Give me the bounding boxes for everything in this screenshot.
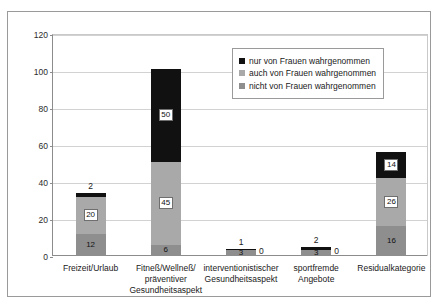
y-axis-tick-mark [50, 220, 53, 221]
bar-segment-bottom[interactable]: 6 [151, 245, 181, 256]
bar-value-label: 3 [239, 249, 243, 257]
category-label-line: Gesundheitsaspekt [203, 274, 278, 285]
category-label-line: Fitneß/Wellneß/ [128, 263, 203, 274]
legend-item-nur: nur von Frauen wahrgenommen [239, 56, 376, 66]
legend-item-label: auch von Frauen wahrgenommen [249, 68, 376, 78]
y-axis-tick-label: 20 [39, 215, 48, 225]
legend-item-label: nicht von Frauen wahrgenommen [249, 81, 376, 91]
bar-zero-value-label: 0 [334, 246, 339, 256]
gridline [53, 220, 427, 221]
plot-area: 020406080100120 12202Freizeit/Urlaub6455… [52, 34, 428, 256]
category-label-line: Freizeit/Urlaub [53, 263, 128, 274]
y-axis-tick-label: 80 [39, 104, 48, 114]
chart-legend: nur von Frauen wahrgenommen auch von Fra… [232, 48, 384, 99]
chart-figure-frame: 020406080100120 12202Freizeit/Urlaub6455… [7, 11, 431, 297]
bar-segment-middle[interactable]: 26 [376, 178, 406, 226]
bar-value-label: 50 [159, 109, 173, 121]
legend-item-nicht: nicht von Frauen wahrgenommen [239, 81, 376, 91]
bar-value-label: 16 [387, 237, 396, 245]
category-label-line: interventionistischer [203, 263, 278, 274]
y-axis-tick-label: 0 [43, 252, 48, 262]
y-axis-tick-label: 100 [34, 67, 48, 77]
bar-segment-bottom[interactable]: 3 [301, 250, 331, 256]
bar-group[interactable]: 64550Fitneß/Wellneß/präventiverGesundhei… [151, 69, 181, 256]
bar-segment-bottom[interactable]: 12 [76, 234, 106, 256]
bar-value-label-above: 2 [88, 181, 93, 191]
x-axis-category-label: interventionistischerGesundheitsaspekt [203, 263, 278, 285]
bar-value-label: 14 [384, 159, 398, 171]
legend-swatch-icon [239, 58, 245, 64]
y-axis-tick-mark [50, 257, 53, 258]
legend-item-auch: auch von Frauen wahrgenommen [239, 68, 376, 78]
bar-value-label-above: 2 [314, 235, 319, 245]
bar-segment-bottom[interactable]: 16 [376, 226, 406, 256]
legend-swatch-icon [239, 70, 245, 76]
y-axis-tick-mark [50, 109, 53, 110]
bar-segment-middle[interactable]: 45 [151, 162, 181, 245]
y-axis-tick-label: 60 [39, 141, 48, 151]
gridline [53, 109, 427, 110]
x-axis-category-label: Fitneß/Wellneß/präventiverGesundheitsasp… [128, 263, 203, 296]
bar-value-label-above: 1 [239, 237, 244, 247]
category-label-line: sportfremde [279, 263, 354, 274]
y-axis-tick-label: 40 [39, 178, 48, 188]
category-label-line: Residualkategorie [354, 263, 429, 274]
y-axis-tick-mark [50, 35, 53, 36]
category-label-line: präventiver [128, 274, 203, 285]
bar-group[interactable]: 310interventionistischerGesundheitsaspek… [226, 249, 256, 256]
bar-segment-middle[interactable]: 20 [76, 197, 106, 234]
x-axis-category-label: sportfremdeAngebote [279, 263, 354, 285]
gridline [53, 146, 427, 147]
bar-segment-top[interactable]: 50 [151, 69, 181, 162]
category-label-line: Gesundheitsaspekt [128, 285, 203, 296]
legend-item-label: nur von Frauen wahrgenommen [249, 56, 370, 66]
bar-segment-top[interactable] [76, 193, 106, 197]
bar-value-label: 26 [384, 196, 398, 208]
bar-value-label: 12 [86, 241, 95, 249]
gridline [53, 183, 427, 184]
bar-value-label: 45 [159, 197, 173, 209]
bar-value-label: 3 [314, 249, 318, 257]
y-axis-tick-mark [50, 72, 53, 73]
category-label-line: Angebote [279, 274, 354, 285]
x-axis-category-label: Residualkategorie [354, 263, 429, 274]
y-axis-tick-mark [50, 183, 53, 184]
bar-zero-value-label: 0 [259, 246, 264, 256]
bar-segment-bottom[interactable]: 3 [226, 250, 256, 256]
bar-value-label: 6 [164, 246, 168, 254]
y-axis-tick-mark [50, 146, 53, 147]
gridline [53, 35, 427, 36]
bar-segment-top[interactable]: 14 [376, 152, 406, 178]
y-axis-tick-label: 120 [34, 30, 48, 40]
legend-swatch-icon [239, 83, 245, 89]
x-axis-category-label: Freizeit/Urlaub [53, 263, 128, 274]
bar-group[interactable]: 162614Residualkategorie [376, 152, 406, 256]
bar-group[interactable]: 12202Freizeit/Urlaub [76, 193, 106, 256]
bar-group[interactable]: 320sportfremdeAngebote [301, 247, 331, 256]
bar-value-label: 20 [84, 209, 98, 221]
